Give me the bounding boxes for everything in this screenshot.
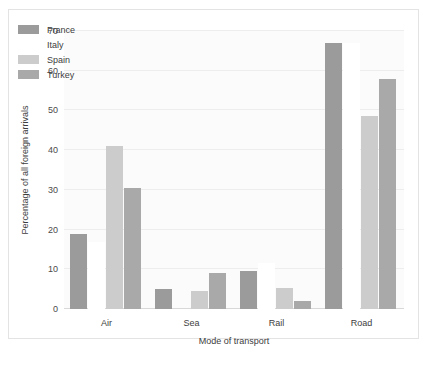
bar <box>294 301 311 309</box>
bar-group <box>240 31 319 309</box>
bar <box>240 271 257 309</box>
chart-legend: FranceItalySpainTurkey <box>18 22 75 82</box>
bar <box>379 79 396 309</box>
bar <box>209 273 226 309</box>
chart-figure: Percentage of all foreign arrivals 01020… <box>8 9 419 339</box>
x-tick-label: Sea <box>183 318 199 328</box>
legend-label: Turkey <box>47 70 74 80</box>
y-tick-label: 10 <box>48 264 58 274</box>
x-axis-title: Mode of transport <box>199 336 270 346</box>
bar <box>276 288 293 309</box>
bar-group <box>155 31 234 309</box>
legend-label: Italy <box>47 40 64 50</box>
x-tick-label: Road <box>351 318 373 328</box>
y-tick-label: 40 <box>48 145 58 155</box>
y-tick-label: 30 <box>48 185 58 195</box>
legend-item: Italy <box>18 37 75 52</box>
bar <box>106 146 123 309</box>
bar <box>258 263 275 309</box>
bar <box>191 291 208 309</box>
legend-item: Spain <box>18 52 75 67</box>
bar <box>325 43 342 309</box>
legend-item: France <box>18 22 75 37</box>
bar <box>155 289 172 309</box>
legend-label: France <box>47 25 75 35</box>
y-tick-label: 50 <box>48 105 58 115</box>
bar-group <box>70 31 149 309</box>
legend-label: Spain <box>47 55 70 65</box>
y-tick-label: 20 <box>48 225 58 235</box>
legend-item: Turkey <box>18 67 75 82</box>
x-tick-label: Rail <box>269 318 285 328</box>
legend-swatch-icon <box>18 40 39 49</box>
y-tick-label: 0 <box>53 304 58 314</box>
bar <box>343 43 360 309</box>
bar <box>361 116 378 309</box>
bar <box>88 242 105 310</box>
bar-series-container <box>64 31 404 309</box>
y-axis-title: Percentage of all foreign arrivals <box>20 105 30 234</box>
legend-swatch-icon <box>18 55 39 64</box>
legend-swatch-icon <box>18 25 39 34</box>
bar-group <box>325 31 404 309</box>
legend-swatch-icon <box>18 70 39 79</box>
x-tick-label: Air <box>101 318 112 328</box>
plot-area: 010203040506070 AirSeaRailRoad Mode of t… <box>64 31 404 309</box>
bar <box>124 188 141 309</box>
bar <box>70 234 87 309</box>
